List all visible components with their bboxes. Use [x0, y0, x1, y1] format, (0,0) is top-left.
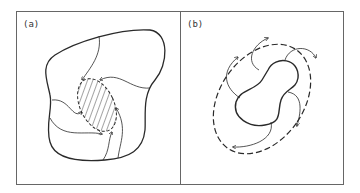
panel-b-frame — [181, 12, 344, 185]
panel-b-label: (b) — [187, 19, 203, 29]
panel-a-label: (a) — [23, 19, 39, 29]
peanut-inner-curve — [235, 61, 298, 126]
panel-b: (b) — [187, 19, 331, 172]
figure: (a) (b) — [0, 0, 360, 193]
panel-a: (a) — [23, 19, 165, 161]
dashed-outer-boundary — [193, 26, 331, 172]
hatched-core — [70, 72, 124, 137]
